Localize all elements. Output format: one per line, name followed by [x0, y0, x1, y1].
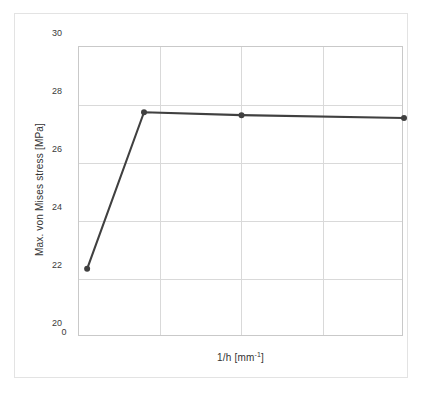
data-point-marker: [239, 112, 245, 118]
x-axis-title-tail: ]: [261, 352, 264, 363]
data-point-marker: [141, 109, 147, 115]
x-axis-title: 1/h [mm-1]: [78, 352, 403, 363]
y-axis-title: Max. von Mises stress [MPa]: [34, 80, 45, 300]
data-point-marker: [401, 115, 407, 121]
data-point-marker: [84, 266, 90, 272]
series-line-max-von-mises-stress: [87, 112, 404, 269]
chart-figure: 30 28 26 24 22 20 0 5 10 15 20: [0, 0, 424, 399]
figure-border: 30 28 26 24 22 20 0 5 10 15 20: [14, 13, 408, 378]
plot-area: [78, 46, 403, 336]
y-tick-label-30: 30: [22, 28, 62, 38]
series-markers: [84, 109, 407, 272]
x-axis-title-base: 1/h [mm: [217, 352, 255, 363]
data-series-svg: [79, 47, 404, 337]
